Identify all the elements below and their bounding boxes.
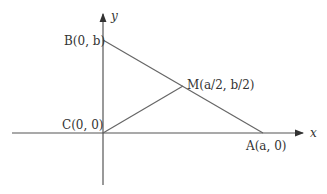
- point-M-label: M(a/2, b/2): [187, 78, 254, 92]
- point-A-label: A(a, 0): [245, 139, 286, 153]
- y-axis-label: y: [110, 9, 118, 23]
- coordinate-diagram: y x B(0, b) C(0, 0) M(a/2, b/2) A(a, 0): [0, 0, 327, 194]
- segment-CM: [103, 86, 183, 133]
- point-C-label: C(0, 0): [62, 118, 103, 132]
- x-axis-label: x: [310, 126, 317, 140]
- point-B-label: B(0, b): [64, 34, 105, 48]
